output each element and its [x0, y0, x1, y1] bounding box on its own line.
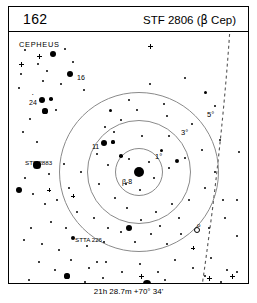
star-marker — [143, 280, 151, 283]
star-field: CEPHEUS 1°3°5°β-81624•11STF 2883STTA 226… — [9, 32, 248, 283]
star-marker — [236, 271, 238, 273]
star-marker — [32, 193, 34, 195]
coordinates-footer: 21h 28.7m +70° 34' — [0, 287, 257, 296]
star-marker — [50, 221, 53, 224]
faint-star-cross-icon — [209, 276, 210, 281]
ring-label-5deg: 5° — [207, 110, 214, 119]
star-label-beta-cep: β-8 — [122, 178, 132, 185]
star-marker — [96, 261, 98, 263]
faint-star-cross-icon — [232, 274, 233, 279]
star-marker — [64, 48, 66, 50]
star-marker — [134, 167, 144, 177]
star-marker — [120, 119, 122, 121]
star-marker — [63, 163, 65, 165]
star-marker — [111, 140, 114, 143]
star-marker — [38, 261, 40, 263]
beta-symbol: β — [201, 13, 208, 27]
star-marker — [102, 277, 104, 279]
star-marker — [41, 243, 43, 245]
star-marker — [214, 105, 217, 108]
chart-frame: 162 STF 2806 (β Cep) CEPHEUS 1°3°5°β-816… — [8, 6, 249, 284]
star-marker — [23, 239, 25, 241]
faint-star-cross-icon — [73, 194, 74, 198]
star-marker — [224, 217, 226, 219]
star-marker — [126, 207, 128, 209]
faint-star-cross-icon — [39, 54, 40, 59]
star-marker — [226, 269, 228, 271]
star-marker — [93, 217, 95, 219]
star-marker — [174, 259, 176, 261]
faint-star-cross-icon — [150, 44, 151, 49]
star-marker — [54, 269, 56, 271]
chart-title-prefix: STF 2806 ( — [143, 14, 201, 26]
chart-title: STF 2806 (β Cep) — [143, 13, 236, 27]
star-marker — [22, 131, 24, 133]
star-marker — [236, 235, 238, 237]
star-marker — [20, 73, 22, 75]
star-marker — [109, 109, 112, 112]
star-marker — [70, 259, 72, 261]
star-marker — [44, 203, 46, 205]
star-marker — [160, 149, 163, 152]
star-marker — [72, 61, 74, 63]
star-marker — [16, 187, 22, 193]
star-marker — [30, 227, 32, 229]
star-marker — [58, 249, 61, 252]
star-label-star-16: 16 — [77, 74, 85, 81]
star-marker — [60, 83, 63, 86]
star-marker — [24, 49, 26, 51]
star-marker — [49, 97, 53, 101]
star-marker — [46, 70, 48, 72]
star-marker — [204, 91, 207, 94]
star-marker — [134, 241, 136, 243]
star-marker — [18, 87, 20, 89]
star-marker — [208, 227, 210, 229]
star-marker — [65, 227, 67, 229]
star-marker — [105, 261, 107, 263]
star-label-star-24: 24 — [29, 99, 37, 106]
star-marker — [83, 89, 85, 91]
star-marker — [84, 281, 86, 283]
star-marker — [219, 139, 221, 141]
star-marker — [36, 141, 39, 144]
faint-star-cross-icon — [141, 274, 142, 279]
star-marker — [48, 173, 50, 175]
faint-star-cross-icon — [49, 188, 50, 192]
star-marker — [220, 281, 223, 283]
star-marker — [119, 154, 123, 158]
star-marker — [222, 199, 225, 202]
star-label-stf-2883: STF 2883 — [25, 160, 52, 166]
star-marker — [238, 151, 240, 153]
constellation-label: CEPHEUS — [19, 40, 60, 49]
star-marker — [149, 83, 151, 85]
star-label-omicron: o — [197, 222, 200, 228]
star-marker — [236, 199, 238, 201]
star-marker — [42, 108, 47, 113]
star-marker — [184, 77, 186, 79]
star-marker — [28, 279, 30, 281]
faint-star-cross-icon — [193, 246, 194, 250]
star-marker — [204, 275, 206, 277]
star-marker — [88, 267, 90, 269]
star-marker — [37, 63, 40, 66]
star-marker — [157, 271, 159, 273]
star-marker — [55, 109, 58, 112]
star-marker — [139, 263, 141, 265]
star-marker — [191, 123, 193, 125]
chart-header: 162 STF 2806 (β Cep) — [9, 7, 248, 32]
star-marker — [192, 267, 194, 269]
star-marker — [29, 118, 31, 120]
star-marker — [86, 245, 88, 247]
star-marker — [210, 257, 213, 260]
star-chart-page: 162 STF 2806 (β Cep) CEPHEUS 1°3°5°β-816… — [0, 0, 257, 303]
chart-title-suffix: Cep) — [208, 14, 236, 26]
star-marker — [164, 279, 166, 281]
faint-star-cross-icon — [21, 62, 22, 67]
star-marker — [50, 51, 56, 57]
star-marker — [64, 273, 69, 278]
star-label-star-11: 11 — [92, 143, 99, 150]
star-marker — [67, 71, 74, 78]
star-marker — [42, 80, 44, 82]
star-label-stta-226: STTA 226 — [75, 237, 102, 243]
star-marker — [39, 97, 46, 104]
